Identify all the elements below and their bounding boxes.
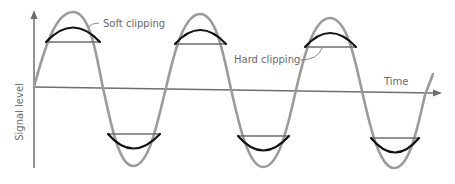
x-axis-label: Time <box>383 76 408 87</box>
soft-clipping-leader <box>88 23 99 27</box>
y-axis-arrow-icon <box>31 10 38 19</box>
soft-clipping-label: Soft clipping <box>103 18 165 29</box>
x-axis-arrow-icon <box>433 90 442 97</box>
x-axis <box>34 87 434 93</box>
hard-clipping-label: Hard clipping <box>234 54 300 65</box>
y-axis-label: Signal level <box>14 83 25 141</box>
clipping-diagram: Soft clipping Hard clipping Time Signal … <box>0 0 455 184</box>
